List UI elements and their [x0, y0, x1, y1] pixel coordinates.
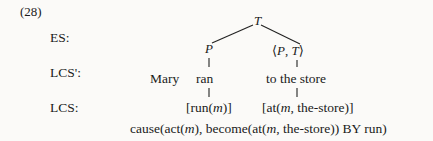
angle-bracket-close-icon: ⟩	[299, 43, 304, 58]
sentence-word-subject: Mary	[150, 72, 179, 86]
lcs-composed-part1: cause(act(	[130, 121, 185, 136]
lcs-verb-close: )]	[223, 100, 232, 115]
lcs-formula-verb: [run(m)]	[186, 101, 232, 115]
tree-node-pair-separator: ,	[285, 43, 288, 58]
lcs-verb-open: [run(	[186, 100, 213, 115]
figure-canvas: (28) ES: LCS': LCS: T P ⟨P, T⟩ Mary ran …	[0, 0, 433, 141]
tree-node-pair: ⟨P, T⟩	[272, 44, 304, 57]
tree-edges-and-connectors	[0, 0, 433, 141]
edge-root-to-left-child	[212, 25, 253, 43]
sentence-word-verb: ran	[196, 72, 213, 86]
lcs-pp-rest: , the-store)]	[290, 100, 353, 115]
lcs-verb-variable: m	[213, 100, 223, 115]
lcs-pp-open: [at(	[262, 100, 281, 115]
tree-node-pair-second: T	[292, 43, 299, 58]
lcs-formula-pp: [at(m, the-store)]	[262, 101, 353, 115]
tree-node-p: P	[205, 42, 213, 55]
lcs-composed-part2: ), become(at(	[194, 121, 266, 136]
edge-root-to-right-child	[261, 25, 300, 44]
lcs-composed-variable-1: m	[185, 121, 195, 136]
lcs-composed-variable-2: m	[266, 121, 276, 136]
sentence-phrase-pp: to the store	[266, 72, 326, 86]
lcs-formula-composed: cause(act(m), become(at(m, the-store)) B…	[130, 122, 387, 136]
tree-node-pair-first: P	[277, 43, 285, 58]
tree-node-t: T	[254, 14, 261, 27]
lcs-composed-part3: , the-store)) BY run)	[276, 121, 386, 136]
